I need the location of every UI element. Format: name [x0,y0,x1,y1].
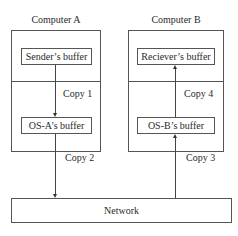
os-b-buffer-label: OS-B’s buffer [138,118,214,133]
copy3-arrow-line [175,138,176,198]
computer-a-divider [11,81,101,82]
network-label: Network [12,199,231,222]
receivers-buffer-label: Reciever’s buffer [138,49,214,64]
copy2-label: Copy 2 [65,152,94,164]
copy2-arrow-line [55,134,56,194]
os-a-buffer-label: OS-A’s buffer [22,118,91,133]
network-box: Network [11,198,232,223]
computer-b-title: Computer B [128,14,224,26]
copy4-arrowhead-icon [173,65,177,69]
computer-b-divider [128,81,224,82]
copy1-arrow-line [55,65,56,113]
copy1-label: Copy 1 [63,88,92,100]
os-a-buffer-box: OS-A’s buffer [21,117,92,134]
copy3-arrowhead-icon [173,134,177,138]
computer-a-title: Computer A [11,14,101,26]
receivers-buffer-box: Reciever’s buffer [137,48,215,65]
os-b-buffer-box: OS-B’s buffer [137,117,215,134]
copy3-label: Copy 3 [186,152,215,164]
copy1-arrowhead-icon [53,113,57,117]
senders-buffer-box: Sender’s buffer [21,48,92,65]
senders-buffer-label: Sender’s buffer [22,49,91,64]
copy4-label: Copy 4 [184,88,213,100]
copy4-arrow-line [175,69,176,117]
